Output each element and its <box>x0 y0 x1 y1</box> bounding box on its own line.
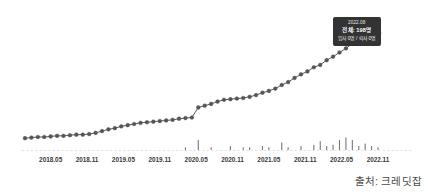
data-point[interactable] <box>42 135 46 139</box>
flow-bar <box>345 138 346 151</box>
data-point[interactable] <box>196 106 200 110</box>
data-point[interactable] <box>81 133 85 137</box>
flow-bar <box>358 146 359 150</box>
data-point[interactable] <box>344 47 348 51</box>
flow-bar <box>339 140 340 150</box>
data-point[interactable] <box>229 97 233 101</box>
flow-bar <box>185 147 186 150</box>
flow-bar <box>198 140 199 150</box>
data-point[interactable] <box>331 55 335 59</box>
data-point[interactable] <box>107 127 111 131</box>
data-point[interactable] <box>94 131 98 135</box>
data-point[interactable] <box>119 125 123 129</box>
data-point[interactable] <box>306 70 310 74</box>
flow-bar <box>281 142 282 150</box>
tooltip-total: 전체: 198명 <box>338 27 376 34</box>
flow-bar <box>268 147 269 150</box>
data-point[interactable] <box>318 63 322 67</box>
data-point[interactable] <box>209 102 213 106</box>
data-point[interactable] <box>158 119 162 123</box>
data-point[interactable] <box>113 126 117 130</box>
data-point[interactable] <box>273 87 277 91</box>
data-point[interactable] <box>132 122 136 126</box>
data-point[interactable] <box>55 134 59 138</box>
x-tick-label: 2021.11 <box>294 156 317 163</box>
trend-line <box>25 33 378 138</box>
x-tick-label: 2018.05 <box>39 156 63 163</box>
headcount-line <box>25 33 378 138</box>
data-point[interactable] <box>293 76 297 80</box>
flow-bar <box>243 147 244 150</box>
data-point[interactable] <box>49 135 53 139</box>
data-point[interactable] <box>87 132 91 136</box>
data-point[interactable] <box>338 51 342 55</box>
flow-bar <box>333 145 334 150</box>
data-point[interactable] <box>62 134 66 138</box>
data-point[interactable] <box>100 129 104 133</box>
headcount-chart: 2018.052018.112019.052019.112020.052020.… <box>0 0 428 192</box>
data-point[interactable] <box>152 120 156 124</box>
flow-bar <box>371 146 372 150</box>
flow-bar <box>352 140 353 150</box>
flow-bar <box>288 147 289 150</box>
data-point[interactable] <box>126 123 130 127</box>
x-tick-label: 2019.11 <box>148 156 171 163</box>
data-point[interactable] <box>139 121 143 125</box>
x-tick-label: 2021.05 <box>257 156 281 163</box>
flow-bar <box>365 144 366 150</box>
headcount-markers <box>23 30 380 140</box>
data-point[interactable] <box>190 116 194 120</box>
data-point[interactable] <box>30 136 34 140</box>
data-point[interactable] <box>145 120 149 124</box>
x-axis-tick-labels: 2018.052018.112019.052019.112020.052020.… <box>39 156 390 163</box>
tooltip-date: 2022.08 <box>338 20 376 26</box>
flow-bar <box>230 146 231 150</box>
x-tick-label: 2020.05 <box>185 156 209 163</box>
data-point[interactable] <box>75 133 79 137</box>
data-point[interactable] <box>254 93 258 97</box>
data-point[interactable] <box>36 135 40 139</box>
flow-bar <box>262 146 263 150</box>
x-tick-label: 2022.05 <box>330 156 354 163</box>
data-point[interactable] <box>241 96 245 100</box>
flow-bar <box>326 146 327 150</box>
data-point[interactable] <box>261 91 265 95</box>
data-point[interactable] <box>280 83 284 87</box>
x-tick-label: 2018.11 <box>76 156 99 163</box>
data-point[interactable] <box>171 118 175 122</box>
data-point[interactable] <box>216 100 220 104</box>
data-point[interactable] <box>177 117 181 121</box>
source-attribution: 출처: 크레딧잡 <box>355 173 422 188</box>
data-point[interactable] <box>184 116 188 120</box>
flow-bar <box>320 141 321 150</box>
monthly-flow-bars <box>185 138 379 151</box>
flow-bar <box>300 146 301 150</box>
data-point[interactable] <box>286 80 290 84</box>
x-tick-label: 2022.11 <box>367 156 390 163</box>
flow-bar <box>377 147 378 150</box>
data-point[interactable] <box>203 104 207 108</box>
flow-bar <box>313 145 314 150</box>
tooltip-flow: 입사 0명 / 퇴사 0명 <box>338 36 376 42</box>
data-point[interactable] <box>299 73 303 77</box>
flow-bar <box>249 147 250 150</box>
data-point[interactable] <box>23 136 27 140</box>
data-point[interactable] <box>312 65 316 69</box>
flow-bar <box>211 147 212 150</box>
data-point[interactable] <box>325 58 329 62</box>
data-point[interactable] <box>235 97 239 101</box>
data-point[interactable] <box>68 133 72 137</box>
data-point[interactable] <box>164 119 168 123</box>
x-tick-label: 2020.11 <box>221 156 244 163</box>
data-point-tooltip: 2022.08 전체: 198명 입사 0명 / 퇴사 0명 <box>333 17 381 46</box>
data-point[interactable] <box>248 95 252 99</box>
data-point[interactable] <box>267 89 271 93</box>
data-point[interactable] <box>222 98 226 102</box>
x-tick-label: 2019.05 <box>112 156 136 163</box>
